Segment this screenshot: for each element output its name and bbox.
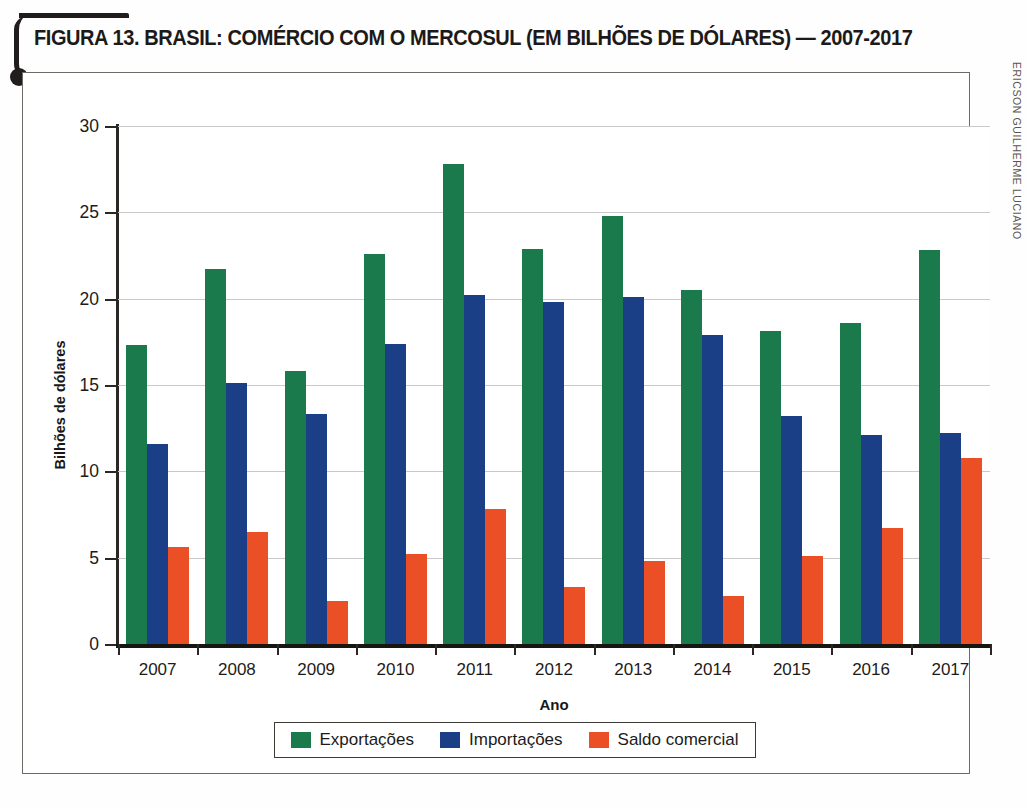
x-axis-tick — [594, 644, 596, 655]
bar-exporta-es-2016 — [840, 323, 861, 644]
y-axis-tick-label: 10 — [80, 461, 99, 482]
bar-exporta-es-2017 — [919, 250, 940, 644]
bar-group — [277, 126, 356, 644]
x-axis-tick-label-2011: 2011 — [456, 660, 493, 680]
bar-group — [831, 126, 910, 644]
x-axis-tick-label-2012: 2012 — [535, 660, 573, 680]
legend-swatch-icon — [440, 732, 460, 748]
bar-group — [752, 126, 831, 644]
bar-importa-es-2017 — [940, 433, 961, 644]
x-axis-tick-label-2010: 2010 — [377, 660, 415, 680]
y-axis-tick-label: 20 — [80, 288, 99, 309]
bar-importa-es-2010 — [385, 344, 406, 644]
x-axis-title: Ano — [118, 696, 990, 713]
y-axis-tick-label: 0 — [89, 634, 99, 655]
legend-item-saldo-comercial[interactable]: Saldo comercial — [589, 730, 739, 750]
credit-text: ERICSON GUILHERME LUCIANO — [1011, 62, 1023, 240]
x-axis-tick-label-2013: 2013 — [614, 660, 652, 680]
y-axis-tick-label: 30 — [80, 116, 99, 137]
x-axis-tick — [197, 644, 199, 655]
chart-legend: ExportaçõesImportaçõesSaldo comercial — [274, 722, 756, 758]
bar-group — [197, 126, 276, 644]
bar-group — [356, 126, 435, 644]
bar-saldo-comercial-2017 — [961, 458, 982, 644]
x-axis-tick — [514, 644, 516, 655]
bar-group — [435, 126, 514, 644]
bar-group — [514, 126, 593, 644]
bar-saldo-comercial-2012 — [564, 587, 585, 644]
bar-exporta-es-2012 — [522, 249, 543, 644]
legend-item-exporta-es[interactable]: Exportações — [291, 730, 415, 750]
legend-label: Exportações — [320, 730, 415, 750]
bar-importa-es-2008 — [226, 383, 247, 644]
bar-importa-es-2009 — [306, 414, 327, 644]
bar-saldo-comercial-2007 — [168, 547, 189, 644]
bar-importa-es-2016 — [861, 435, 882, 644]
y-axis-tick — [105, 471, 116, 473]
bar-importa-es-2007 — [147, 444, 168, 644]
bar-saldo-comercial-2013 — [644, 561, 665, 644]
bar-saldo-comercial-2010 — [406, 554, 427, 644]
bar-exporta-es-2010 — [364, 254, 385, 644]
y-axis-tick-label: 15 — [80, 375, 99, 396]
bar-exporta-es-2009 — [285, 371, 306, 644]
bar-saldo-comercial-2016 — [882, 528, 903, 644]
figure-title: FIGURA 13. BRASIL: COMÉRCIO COM O MERCOS… — [34, 26, 912, 51]
bar-importa-es-2014 — [702, 335, 723, 644]
figure-page: FIGURA 13. BRASIL: COMÉRCIO COM O MERCOS… — [0, 0, 1029, 809]
x-axis-line — [116, 644, 992, 648]
bar-exporta-es-2007 — [126, 345, 147, 644]
y-axis-tick — [105, 644, 116, 646]
y-axis-title: Bilhões de dólares — [52, 340, 68, 469]
y-axis-tick — [105, 299, 116, 301]
y-axis-tick — [105, 212, 116, 214]
bar-exporta-es-2015 — [760, 331, 781, 644]
x-axis-tick — [673, 644, 675, 655]
y-axis-tick — [105, 385, 116, 387]
bar-saldo-comercial-2014 — [723, 596, 744, 644]
bar-exporta-es-2013 — [602, 216, 623, 644]
x-axis-tick-label-2014: 2014 — [694, 660, 732, 680]
legend-label: Saldo comercial — [618, 730, 739, 750]
bar-group — [118, 126, 197, 644]
x-axis-tick-label-2015: 2015 — [773, 660, 811, 680]
x-axis-tick — [911, 644, 913, 655]
x-axis-tick-label-2007: 2007 — [139, 660, 177, 680]
x-axis-tick — [118, 644, 120, 655]
x-axis-tick-label-2016: 2016 — [852, 660, 890, 680]
bar-importa-es-2013 — [623, 297, 644, 644]
legend-item-importa-es[interactable]: Importações — [440, 730, 563, 750]
bar-importa-es-2015 — [781, 416, 802, 644]
x-axis-tick-label-2008: 2008 — [218, 660, 256, 680]
x-axis-tick — [435, 644, 437, 655]
x-axis-tick — [277, 644, 279, 655]
y-axis-tick-label: 25 — [80, 202, 99, 223]
x-axis-tick — [752, 644, 754, 655]
bar-saldo-comercial-2015 — [802, 556, 823, 644]
y-axis-tick-label: 5 — [89, 547, 99, 568]
bar-exporta-es-2011 — [443, 164, 464, 644]
x-axis-tick-label-2009: 2009 — [297, 660, 335, 680]
legend-swatch-icon — [291, 732, 311, 748]
bar-importa-es-2012 — [543, 302, 564, 644]
x-axis-tick-label-2017: 2017 — [931, 660, 969, 680]
y-axis-tick — [105, 558, 116, 560]
bar-saldo-comercial-2009 — [327, 601, 348, 644]
x-axis-tick — [990, 644, 992, 655]
y-axis-tick — [105, 126, 116, 128]
bar-group — [594, 126, 673, 644]
bar-importa-es-2011 — [464, 295, 485, 644]
bar-exporta-es-2008 — [205, 269, 226, 644]
legend-label: Importações — [469, 730, 563, 750]
legend-swatch-icon — [589, 732, 609, 748]
bar-group — [673, 126, 752, 644]
bar-saldo-comercial-2008 — [247, 532, 268, 644]
x-axis-tick — [356, 644, 358, 655]
x-axis-tick — [831, 644, 833, 655]
chart-plot-area: 051015202530 200720082009201020112012201… — [118, 126, 990, 644]
bar-saldo-comercial-2011 — [485, 509, 506, 644]
bar-exporta-es-2014 — [681, 290, 702, 644]
bar-group — [911, 126, 990, 644]
